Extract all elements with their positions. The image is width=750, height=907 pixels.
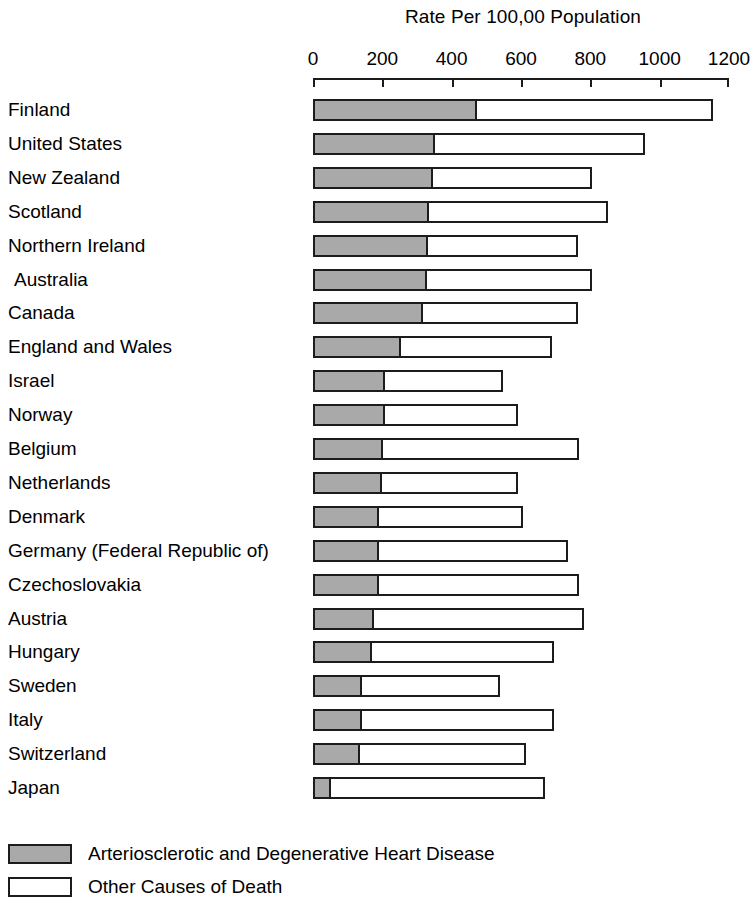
category-label: Hungary [8,640,80,664]
bar-segment-heart-disease [315,576,379,594]
category-label: Germany (Federal Republic of) [8,539,269,563]
stacked-bar [313,336,552,358]
chart-row: Canada [0,301,749,325]
chart-legend: Arteriosclerotic and Degenerative Heart … [0,841,749,907]
chart-rows: FinlandUnited StatesNew ZealandScotlandN… [0,0,749,830]
chart-row: United States [0,132,749,156]
legend-item: Other Causes of Death [8,874,708,902]
stacked-bar [313,709,554,731]
stacked-bar [313,133,645,155]
stacked-bar [313,608,584,630]
stacked-bar [313,302,578,324]
stacked-bar [313,574,579,596]
chart-row: Switzerland [0,742,749,766]
category-label: Scotland [8,200,82,224]
category-label: Denmark [8,505,85,529]
category-label: Japan [8,776,60,800]
category-label: United States [8,132,122,156]
category-label: Austria [8,607,67,631]
category-label: Northern Ireland [8,234,145,258]
category-label: Australia [14,268,88,292]
bar-segment-heart-disease [315,237,428,255]
category-label: New Zealand [8,166,120,190]
bar-segment-heart-disease [315,135,435,153]
legend-swatch [8,877,72,897]
stacked-bar [313,269,592,291]
category-label: Czechoslovakia [8,573,141,597]
category-label: Norway [8,403,72,427]
chart-row: Scotland [0,200,749,224]
chart-row: Germany (Federal Republic of) [0,539,749,563]
category-label: Switzerland [8,742,106,766]
bar-segment-heart-disease [315,711,362,729]
chart-row: New Zealand [0,166,749,190]
bar-segment-heart-disease [315,101,477,119]
chart-row: England and Wales [0,335,749,359]
legend-label: Other Causes of Death [88,874,282,902]
category-label: Finland [8,98,70,122]
bar-segment-heart-disease [315,440,383,458]
chart-row: Japan [0,776,749,800]
bar-segment-heart-disease [315,779,331,797]
legend-label: Arteriosclerotic and Degenerative Heart … [88,841,495,869]
category-label: Sweden [8,674,77,698]
bar-segment-heart-disease [315,271,427,289]
bar-segment-heart-disease [315,372,385,390]
bar-segment-heart-disease [315,406,385,424]
chart-row: Italy [0,708,749,732]
legend-item: Arteriosclerotic and Degenerative Heart … [8,841,708,869]
bar-segment-heart-disease [315,643,372,661]
chart-row: Sweden [0,674,749,698]
bar-segment-heart-disease [315,169,433,187]
stacked-bar [313,472,518,494]
stacked-bar [313,370,503,392]
category-label: Canada [8,301,75,325]
stacked-bar [313,438,579,460]
stacked-bar [313,201,608,223]
stacked-bar [313,404,518,426]
chart-row: Australia [0,268,749,292]
chart-row: Israel [0,369,749,393]
chart-row: Norway [0,403,749,427]
chart-row: Finland [0,98,749,122]
stacked-bar [313,743,526,765]
bar-segment-heart-disease [315,474,382,492]
stacked-bar [313,99,713,121]
chart-row: Hungary [0,640,749,664]
bar-segment-heart-disease [315,745,360,763]
category-label: Belgium [8,437,77,461]
stacked-bar [313,777,545,799]
category-label: Netherlands [8,471,110,495]
bar-segment-heart-disease [315,542,379,560]
legend-swatch [8,844,72,864]
bar-segment-heart-disease [315,304,423,322]
stacked-bar [313,641,554,663]
bar-segment-heart-disease [315,677,362,695]
chart-row: Czechoslovakia [0,573,749,597]
bar-segment-heart-disease [315,203,429,221]
bar-segment-heart-disease [315,338,401,356]
stacked-bar [313,675,500,697]
category-label: England and Wales [8,335,172,359]
chart-row: Denmark [0,505,749,529]
chart-row: Belgium [0,437,749,461]
stacked-bar [313,235,578,257]
bar-segment-heart-disease [315,508,379,526]
stacked-bar [313,167,592,189]
stacked-bar [313,506,523,528]
bar-segment-heart-disease [315,610,374,628]
category-label: Italy [8,708,43,732]
chart-row: Austria [0,607,749,631]
category-label: Israel [8,369,54,393]
chart-row: Netherlands [0,471,749,495]
stacked-bar [313,540,568,562]
chart-row: Northern Ireland [0,234,749,258]
